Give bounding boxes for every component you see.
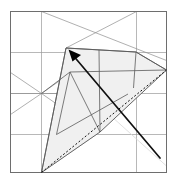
diagram-canvas: Origami crease pattern step — [0, 0, 177, 186]
origami-fold-diagram — [0, 0, 177, 186]
